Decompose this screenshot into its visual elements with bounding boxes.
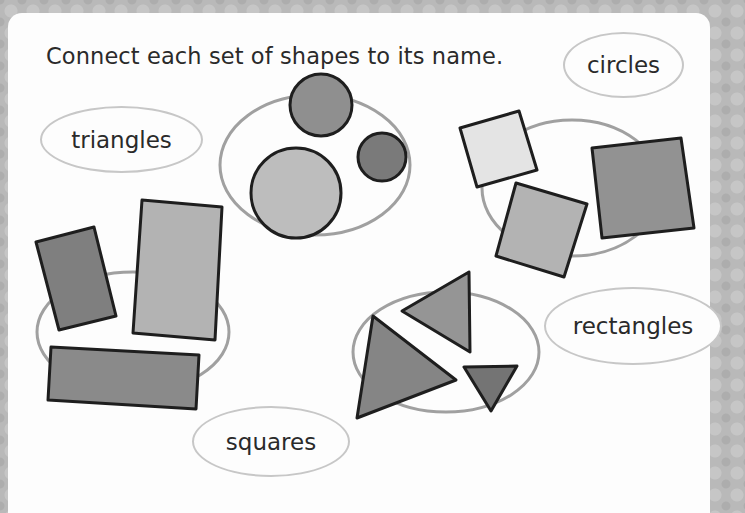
label-rectangles[interactable]: rectangles	[544, 287, 722, 365]
rectangle-group[interactable]	[36, 200, 229, 409]
square-shape	[592, 138, 694, 238]
rectangle-shape	[133, 200, 222, 340]
label-rectangles-text: rectangles	[573, 313, 694, 339]
square-shape	[496, 183, 587, 277]
label-squares-text: squares	[226, 429, 316, 455]
circle-shape	[251, 148, 341, 238]
label-triangles[interactable]: triangles	[40, 106, 203, 173]
triangle-group[interactable]	[353, 272, 539, 418]
circle-shape	[290, 74, 352, 136]
circle-shape	[358, 133, 406, 181]
triangle-shape	[402, 272, 470, 352]
circle-group[interactable]	[220, 74, 410, 238]
square-shape	[460, 111, 537, 187]
triangle-shape	[464, 366, 517, 411]
label-circles[interactable]: circles	[563, 32, 684, 98]
label-triangles-text: triangles	[71, 127, 172, 153]
rectangle-shape	[36, 227, 116, 330]
square-group[interactable]	[460, 111, 694, 277]
rectangle-shape	[48, 347, 199, 409]
label-squares[interactable]: squares	[192, 406, 350, 477]
label-circles-text: circles	[587, 52, 660, 78]
